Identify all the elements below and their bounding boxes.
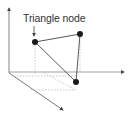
triangle-node-1: [32, 39, 38, 45]
triangle-node-label: Triangle node: [23, 12, 86, 24]
triangle-node-2: [77, 31, 83, 37]
triangle-edges: [35, 34, 80, 82]
projection-guides: [14, 34, 80, 90]
triangle-node-3: [73, 79, 79, 85]
